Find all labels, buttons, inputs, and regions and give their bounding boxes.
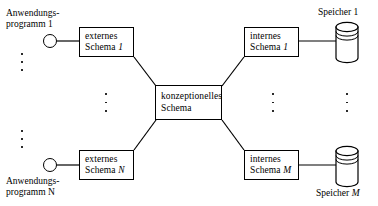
conceptual-schema-box[interactable]: konzeptionelles Schema [155,85,222,120]
storage-top-label: Speicher 1 [318,7,358,18]
ellipsis-external-schema-column [104,93,108,112]
application-program-bottom-label-line2: programm N [6,187,59,198]
external-schema-bottom-line2: Schema N [85,165,133,177]
application-program-bottom-label: Anwendungs- programm N [6,176,59,198]
storage-bottom-label: Speicher M [316,188,360,199]
ellipsis-application-column-bottom [20,130,24,148]
ellipsis-application-column-top [20,53,24,71]
connector-external1-to-conceptual [134,57,156,86]
connector-conceptual-to-internalM [222,120,244,150]
internal-schema-top-box[interactable]: internes Schema 1 [244,27,299,57]
connector-conceptual-to-internal1 [222,57,244,86]
internal-schema-bottom-line1: internes [250,154,298,166]
storage-cylinder-bottom [336,146,358,186]
external-schema-bottom-line1: externes [85,154,133,166]
application-program-bottom-node[interactable] [43,158,57,172]
application-program-top-node[interactable] [43,34,57,48]
application-program-top-label-line2: programm 1 [6,19,59,30]
external-schema-bottom-box[interactable]: externes Schema N [79,150,134,180]
internal-schema-top-line2: Schema 1 [250,42,298,54]
connector-externalN-to-conceptual [134,120,156,150]
conceptual-schema-line1: konzeptionelles [161,91,221,103]
application-program-top-label-line1: Anwendungs- [6,8,59,19]
application-program-bottom-label-line1: Anwendungs- [6,176,59,187]
external-schema-top-line1: externes [85,31,133,43]
internal-schema-bottom-box[interactable]: internes Schema M [244,150,299,180]
ellipsis-internal-schema-column [271,93,275,112]
application-program-top-label: Anwendungs- programm 1 [6,8,59,30]
three-schema-architecture-diagram: Anwendungs- programm 1 Anwendungs- progr… [0,0,378,206]
storage-cylinder-top [336,22,358,62]
external-schema-top-line2: Schema 1 [85,42,133,54]
internal-schema-top-line1: internes [250,31,298,43]
ellipsis-storage-column [345,93,349,112]
internal-schema-bottom-line2: Schema M [250,165,298,177]
conceptual-schema-line2: Schema [161,103,221,115]
external-schema-top-box[interactable]: externes Schema 1 [79,27,134,57]
